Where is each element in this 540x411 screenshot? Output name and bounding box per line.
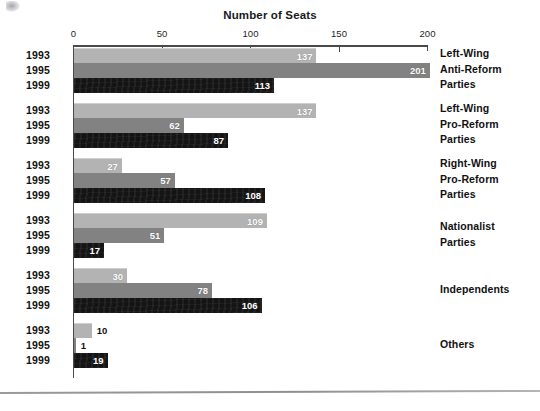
bar-value-label: 87 — [213, 133, 224, 148]
year-label: 1999 — [26, 189, 66, 201]
year-label: 1995 — [26, 339, 66, 351]
year-label: 1995 — [26, 174, 66, 186]
year-label: 1993 — [26, 269, 66, 281]
category-label-line: Left-Wing — [440, 101, 499, 116]
bar[interactable] — [74, 323, 92, 338]
year-label: 1995 — [26, 229, 66, 241]
bar-value-label: 17 — [90, 243, 101, 258]
year-label: 1999 — [26, 244, 66, 256]
bar[interactable]: 57 — [74, 173, 175, 188]
bar[interactable]: 137 — [74, 48, 316, 63]
category-label: Independents — [440, 282, 509, 297]
category-label: Left-WingPro-ReformParties — [440, 101, 499, 147]
bar-value-label: 109 — [247, 214, 263, 229]
bar-value-label: 30 — [113, 269, 124, 284]
bar[interactable]: 201 — [74, 63, 430, 78]
bar[interactable]: 27 — [74, 158, 122, 173]
year-label: 1993 — [26, 324, 66, 336]
bar[interactable]: 106 — [74, 298, 262, 313]
bar-row: 199919 — [0, 353, 540, 368]
year-label: 1995 — [26, 64, 66, 76]
year-label: 1995 — [26, 284, 66, 296]
year-label: 1999 — [26, 354, 66, 366]
year-label: 1995 — [26, 119, 66, 131]
x-axis-tick-label-50: 50 — [157, 28, 168, 39]
bar[interactable]: 17 — [74, 243, 104, 258]
year-label: 1993 — [26, 159, 66, 171]
chart-title: Number of Seats — [0, 9, 540, 21]
bar[interactable]: 30 — [74, 268, 127, 283]
category-label-line: Anti-Reform — [440, 62, 502, 77]
category-label-line: Parties — [440, 77, 502, 92]
category-label-line: Independents — [440, 282, 509, 297]
bottom-divider — [0, 390, 540, 394]
bar-value-label: 1 — [81, 338, 86, 353]
category-label-line: Pro-Reform — [440, 172, 499, 187]
year-label: 1999 — [26, 299, 66, 311]
bar[interactable]: 87 — [74, 133, 228, 148]
x-axis-tick-label-0: 0 — [71, 28, 76, 39]
bar-value-label: 19 — [93, 353, 104, 368]
year-label: 1999 — [26, 79, 66, 91]
bar-row: 199330 — [0, 268, 540, 283]
x-axis-tick-label-100: 100 — [243, 28, 259, 39]
category-label-line: Parties — [440, 132, 499, 147]
bar[interactable]: 113 — [74, 78, 274, 93]
bar[interactable]: 137 — [74, 103, 316, 118]
bar-value-label: 10 — [97, 323, 108, 338]
category-label-line: Nationalist — [440, 219, 495, 234]
bar-row: 1999106 — [0, 298, 540, 313]
bar[interactable]: 51 — [74, 228, 164, 243]
x-axis-tick-label-150: 150 — [331, 28, 347, 39]
category-label-line: Parties — [440, 235, 495, 250]
bar-value-label: 78 — [197, 283, 208, 298]
bar-value-label: 201 — [410, 63, 426, 78]
category-label: NationalistParties — [440, 219, 495, 250]
bar[interactable]: 78 — [74, 283, 212, 298]
bar-value-label: 62 — [169, 118, 180, 133]
seats-bar-chart: Number of Seats 050100150200 19931371995… — [0, 0, 540, 411]
bar[interactable]: 109 — [74, 213, 267, 228]
bar-value-label: 108 — [245, 188, 261, 203]
year-label: 1993 — [26, 104, 66, 116]
category-label-line: Left-Wing — [440, 46, 502, 61]
category-label: Right-WingPro-ReformParties — [440, 156, 499, 202]
bar[interactable]: 19 — [74, 353, 108, 368]
page-margin — [0, 395, 540, 411]
bar-value-label: 106 — [242, 298, 258, 313]
category-label-line: Right-Wing — [440, 156, 499, 171]
x-axis-tick-label-200: 200 — [420, 28, 436, 39]
bar[interactable]: 62 — [74, 118, 184, 133]
bar-value-label: 113 — [255, 78, 270, 93]
category-label: Others — [440, 337, 474, 352]
category-label-line: Parties — [440, 187, 499, 202]
bar[interactable]: 108 — [74, 188, 265, 203]
year-label: 1993 — [26, 49, 66, 61]
bar-value-label: 27 — [107, 159, 118, 174]
bar[interactable] — [74, 338, 76, 353]
year-label: 1993 — [26, 214, 66, 226]
bar-value-label: 51 — [150, 228, 161, 243]
bar-value-label: 137 — [297, 49, 313, 64]
bar-value-label: 137 — [297, 104, 313, 119]
bar-value-label: 57 — [160, 173, 171, 188]
bar-row: 199310 — [0, 323, 540, 338]
category-label-line: Others — [440, 337, 474, 352]
category-label: Left-WingAnti-ReformParties — [440, 46, 502, 92]
year-label: 1999 — [26, 134, 66, 146]
category-label-line: Pro-Reform — [440, 117, 499, 132]
